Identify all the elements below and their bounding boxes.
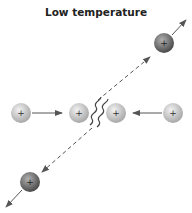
particle-colliding-left: + (69, 103, 89, 123)
svg-text:+: + (17, 108, 25, 118)
svg-text:+: + (112, 108, 120, 118)
diagram: Low temperature + + + + (0, 0, 192, 213)
particle-incoming-right: + (163, 103, 183, 123)
particle-incoming-left: + (11, 103, 31, 123)
svg-text:+: + (169, 108, 177, 118)
collision-diagram: + + + + + + (0, 0, 192, 213)
particle-scattered-bottom-left: + (20, 172, 40, 192)
dashed-trajectory-down (42, 128, 92, 172)
dashed-trajectory-up (98, 57, 150, 100)
arrow-bottom-left (6, 190, 22, 207)
svg-text:+: + (26, 177, 34, 187)
repulsion-wave-icon (90, 97, 108, 127)
particle-scattered-top-right: + (154, 33, 174, 53)
svg-text:+: + (160, 38, 168, 48)
particle-colliding-right: + (106, 103, 126, 123)
svg-text:+: + (75, 108, 83, 118)
arrow-top-right (172, 20, 186, 35)
